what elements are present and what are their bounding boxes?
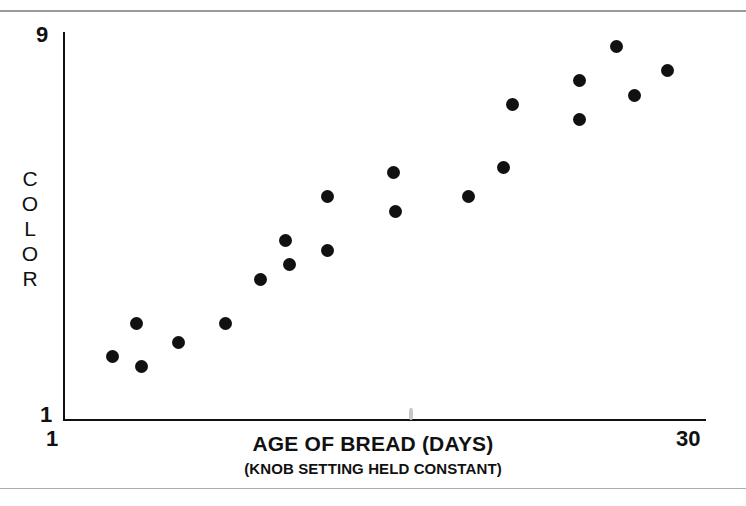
x-axis-subtitle: (KNOB SETTING HELD CONSTANT) <box>0 460 746 477</box>
y-axis-title-letter: C <box>22 168 37 189</box>
data-point <box>254 273 267 286</box>
y-axis-title: C O L O R <box>16 168 44 289</box>
x-axis-title: AGE OF BREAD (DAYS) <box>0 432 746 456</box>
plot-area: 9 1 1 30 C O L O R AGE OF BREAD (DAYS) (… <box>0 0 746 506</box>
data-point <box>628 89 641 102</box>
scan-smudge-artifact <box>409 408 413 420</box>
data-point <box>497 161 510 174</box>
data-point <box>321 190 334 203</box>
y-axis-title-letter: O <box>22 193 38 214</box>
data-point <box>106 350 119 363</box>
data-point <box>172 336 185 349</box>
y-axis-line <box>63 32 65 421</box>
data-point <box>387 166 400 179</box>
y-axis-title-letter: R <box>22 268 37 289</box>
data-point <box>321 244 334 257</box>
data-point <box>219 317 232 330</box>
scatter-plot-figure: 9 1 1 30 C O L O R AGE OF BREAD (DAYS) (… <box>0 0 746 506</box>
data-point <box>661 64 674 77</box>
y-axis-min-tick-label: 1 <box>40 404 52 426</box>
data-point <box>610 40 623 53</box>
data-point <box>462 190 475 203</box>
data-point <box>130 317 143 330</box>
data-point <box>573 113 586 126</box>
x-axis-line <box>63 419 706 421</box>
data-point <box>573 74 586 87</box>
data-point <box>283 258 296 271</box>
data-point <box>389 205 402 218</box>
data-point <box>506 98 519 111</box>
y-axis-title-letter: L <box>24 218 36 239</box>
y-axis-title-letter: O <box>22 243 38 264</box>
data-point <box>279 234 292 247</box>
data-point <box>135 360 148 373</box>
y-axis-max-tick-label: 9 <box>36 24 48 46</box>
